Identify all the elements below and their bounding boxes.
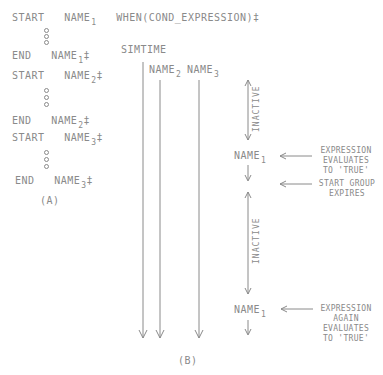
subscript: 1 <box>261 310 266 319</box>
group-name: NAME <box>234 150 260 161</box>
subscript: 1 <box>261 156 266 165</box>
subscript: 3 <box>214 70 219 79</box>
group-name: NAME <box>234 304 260 315</box>
note-line: EVALUATES <box>314 324 378 334</box>
group-name: NAME <box>149 64 175 75</box>
note-line: AGAIN <box>314 314 378 324</box>
inactive-label-2: INACTIVE <box>252 217 261 264</box>
note-start-group-expires: START GROUP EXPIRES <box>314 179 380 199</box>
note-line: EXPRESSION <box>314 304 378 314</box>
name1-event-2: NAME1 <box>234 304 266 316</box>
note-line: EXPRESSION <box>314 146 378 156</box>
group-name: NAME <box>187 64 213 75</box>
caption-b: (B) <box>178 355 198 366</box>
note-line: EXPIRES <box>314 189 380 199</box>
inactive-label-1: INACTIVE <box>252 85 261 132</box>
name2-label: NAME2 <box>149 64 181 76</box>
note-line: START GROUP <box>314 179 380 189</box>
note-line: TO 'TRUE' <box>314 334 378 344</box>
subscript: 2 <box>176 70 181 79</box>
note-line: EVALUATES <box>314 156 378 166</box>
name3-label: NAME3 <box>187 64 219 76</box>
simtime-label: SIMTIME <box>121 44 167 55</box>
note-expression-true: EXPRESSION EVALUATES TO 'TRUE' <box>314 146 378 176</box>
note-line: TO 'TRUE' <box>314 166 378 176</box>
name1-event-1: NAME1 <box>234 150 266 162</box>
note-expression-again-true: EXPRESSION AGAIN EVALUATES TO 'TRUE' <box>314 304 378 344</box>
